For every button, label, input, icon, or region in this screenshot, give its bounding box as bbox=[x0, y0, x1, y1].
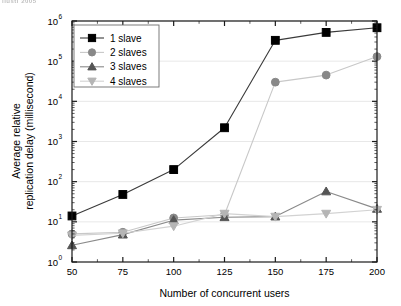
data-point bbox=[221, 124, 229, 132]
data-point bbox=[271, 36, 279, 44]
data-point bbox=[271, 78, 279, 86]
data-point bbox=[322, 29, 330, 37]
y-tick-base: 10 bbox=[47, 56, 58, 67]
x-axis-title: Number of concurrent users bbox=[159, 287, 289, 299]
legend-item-1-slave[interactable]: 1 slave bbox=[80, 33, 142, 44]
y-tick-exponent: 1 bbox=[59, 213, 63, 220]
x-tick-label: 200 bbox=[369, 266, 385, 277]
x-tick-label: 75 bbox=[118, 266, 129, 277]
y-tick-base: 10 bbox=[47, 257, 58, 268]
x-tick-label: 150 bbox=[267, 266, 283, 277]
y-tick-base: 10 bbox=[47, 216, 58, 227]
y-axis-title-line2: replication delay (millisecond) bbox=[23, 72, 35, 210]
line-chart: 100101102103104105106 507510012515017520… bbox=[0, 0, 401, 306]
x-axis-tick-labels: 5075100125150175200 bbox=[67, 266, 385, 277]
page-header-fragment: llusti 2005 bbox=[2, 0, 37, 4]
data-point bbox=[170, 166, 178, 174]
y-tick-exponent: 3 bbox=[59, 133, 63, 140]
x-tick-label: 100 bbox=[166, 266, 182, 277]
legend-marker-square bbox=[88, 34, 95, 41]
legend-marker-circle bbox=[88, 49, 95, 56]
legend-label: 1 slave bbox=[110, 33, 142, 44]
legend-label: 4 slaves bbox=[110, 76, 147, 87]
y-tick-exponent: 0 bbox=[59, 254, 63, 261]
chart-figure: llusti 2005 100101102103104105106 507510… bbox=[0, 0, 401, 306]
y-axis-title-line1: Average relative bbox=[10, 103, 22, 179]
legend-label: 2 slaves bbox=[110, 47, 147, 58]
data-point bbox=[119, 191, 127, 199]
x-tick-label: 50 bbox=[67, 266, 78, 277]
y-tick-exponent: 4 bbox=[59, 93, 63, 100]
x-tick-label: 175 bbox=[318, 266, 334, 277]
y-tick-base: 10 bbox=[47, 176, 58, 187]
y-tick-exponent: 5 bbox=[59, 53, 63, 60]
chart-legend[interactable]: 1 slave2 slaves3 slaves4 slaves bbox=[74, 25, 159, 87]
data-point bbox=[322, 71, 330, 79]
y-tick-base: 10 bbox=[47, 16, 58, 27]
y-tick-exponent: 2 bbox=[59, 173, 63, 180]
x-tick-label: 125 bbox=[217, 266, 233, 277]
y-tick-exponent: 6 bbox=[59, 13, 63, 20]
y-axis-tick-labels: 100101102103104105106 bbox=[47, 13, 62, 268]
y-tick-base: 10 bbox=[47, 96, 58, 107]
y-tick-base: 10 bbox=[47, 136, 58, 147]
legend-label: 3 slaves bbox=[110, 61, 147, 72]
